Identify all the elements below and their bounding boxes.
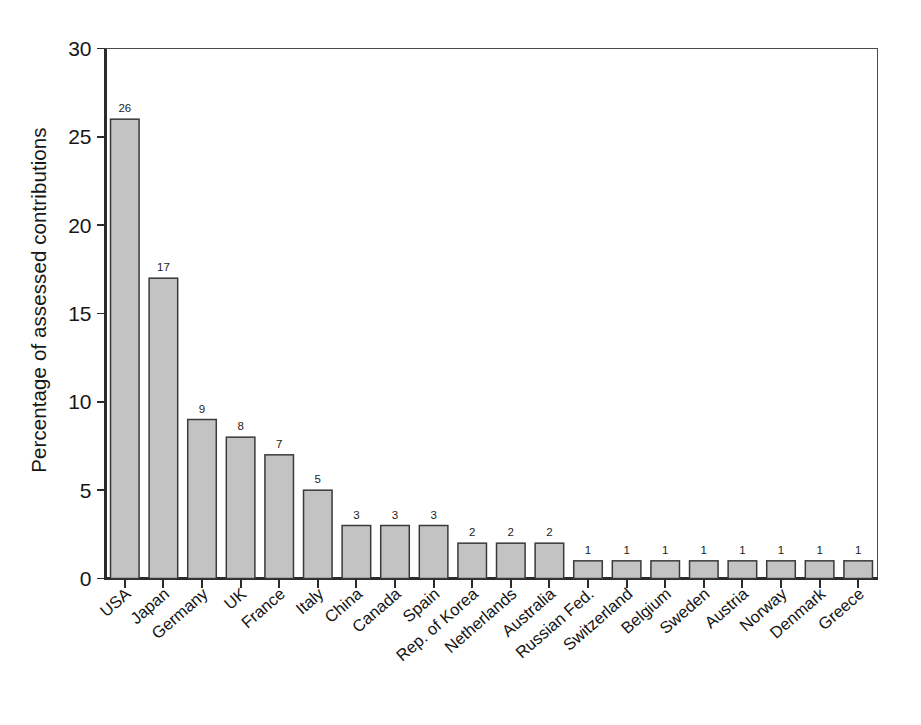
bar-value-label: 3 [430, 509, 436, 521]
bar [690, 561, 719, 579]
y-tick-label: 10 [68, 390, 91, 413]
bar-chart-figure: Percentage of assessed contributions 051… [0, 0, 921, 725]
bar-value-label: 26 [118, 102, 131, 114]
bar [342, 526, 371, 579]
bar [497, 543, 526, 578]
bar-series-group [111, 119, 873, 578]
plot-frame [106, 49, 878, 579]
bar [149, 278, 178, 578]
bar-value-label: 1 [739, 544, 745, 556]
y-tick-label: 5 [80, 479, 92, 502]
x-category-label: UK [220, 584, 249, 613]
bar-value-label: 2 [469, 526, 475, 538]
bar [458, 543, 487, 578]
y-tick-label: 30 [68, 37, 91, 60]
bar [612, 561, 641, 579]
bar-value-label: 5 [315, 473, 321, 485]
bar-value-label: 3 [353, 509, 359, 521]
bar-value-label: 1 [778, 544, 784, 556]
bar [419, 526, 448, 579]
bar [844, 561, 873, 579]
category-label-group: USAJapanGermanyUKFranceItalyChinaCanadaS… [96, 584, 867, 665]
bar-value-label: 1 [816, 544, 822, 556]
bar [226, 437, 255, 578]
bar-value-label: 1 [662, 544, 668, 556]
chart-canvas: 051015202530 2617987533322211111111 USAJ… [0, 0, 921, 725]
bar [188, 420, 217, 579]
bar-value-label: 2 [508, 526, 514, 538]
bar-value-label: 3 [392, 509, 398, 521]
bar [574, 561, 603, 579]
plot-border [106, 49, 878, 579]
bar [265, 455, 294, 579]
bar-value-label: 2 [546, 526, 552, 538]
bar-value-label: 1 [623, 544, 629, 556]
bar [535, 543, 564, 578]
y-tick-label: 20 [68, 214, 91, 237]
bar [767, 561, 796, 579]
y-tick-label: 15 [68, 302, 91, 325]
bar-value-label: 7 [276, 438, 282, 450]
bar [111, 119, 140, 578]
bar [304, 490, 333, 578]
x-category-label: France [238, 584, 289, 631]
axis-lines [106, 49, 878, 579]
bar-value-label: 17 [157, 261, 170, 273]
bar-value-label: 1 [701, 544, 707, 556]
bar [805, 561, 834, 579]
bar-value-label: 8 [237, 420, 243, 432]
y-axis-tick-group: 051015202530 [68, 37, 105, 590]
bar [381, 526, 410, 579]
y-tick-label: 25 [68, 125, 91, 148]
bar-value-label: 9 [199, 403, 205, 415]
bar [728, 561, 757, 579]
y-tick-label: 0 [80, 567, 92, 590]
bar-value-label: 1 [855, 544, 861, 556]
bar [651, 561, 680, 579]
bar-value-label: 1 [585, 544, 591, 556]
